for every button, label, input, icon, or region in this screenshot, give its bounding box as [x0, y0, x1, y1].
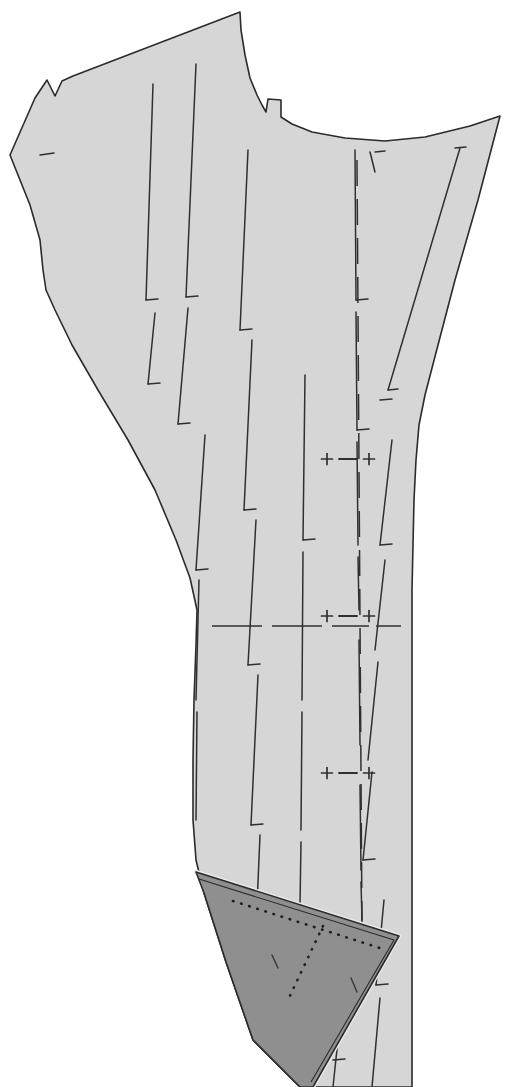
notch-tick [380, 399, 392, 400]
notch-tick [357, 429, 369, 430]
grain-line [300, 842, 301, 905]
grain-line [357, 442, 358, 545]
notch-tick [363, 859, 375, 860]
notch-tick [376, 984, 388, 985]
notch-tick [146, 299, 158, 300]
notch-tick [148, 383, 160, 384]
notch-tick [178, 423, 190, 424]
notch-tick [196, 569, 208, 570]
notch-tick [388, 389, 398, 390]
notch-tick [248, 664, 260, 665]
grain-line [301, 712, 302, 830]
notch-tick [240, 329, 252, 330]
notch-tick [186, 296, 198, 297]
notch-tick [333, 1059, 345, 1060]
pattern-illustration [0, 0, 514, 1087]
grain-line [358, 557, 359, 610]
notch-tick [380, 544, 392, 545]
grain-line [356, 312, 357, 430]
pattern-canvas [0, 0, 514, 1087]
notch-tick [303, 539, 315, 540]
notch-tick [251, 824, 263, 825]
notch-tick [455, 147, 466, 148]
notch-tick [375, 151, 385, 152]
notch-tick [244, 509, 256, 510]
grain-line [355, 150, 356, 300]
grain-line [196, 712, 197, 820]
